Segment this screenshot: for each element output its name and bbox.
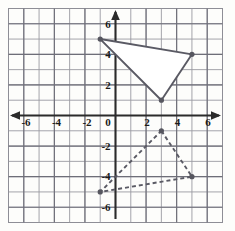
preimage-triangle-vertex-0 [98,36,103,41]
y-tick-label--6: -6 [101,201,111,213]
x-tick-label-6: 6 [205,116,211,128]
y-tick-label-2: 2 [105,79,111,91]
image-triangle-vertex-1 [189,174,194,179]
x-tick-label--6: -6 [21,116,31,128]
y-tick-label-6: 6 [105,18,111,30]
x-tick-label-0: 0 [105,116,111,128]
preimage-triangle-vertex-1 [189,52,194,57]
x-tick-label-2: 2 [144,116,150,128]
coordinate-plane-figure: -6 -4 -2 0 2 4 6 6 4 2 -2 -4 -6 [0,0,235,231]
image-triangle-vertex-0 [159,128,164,133]
x-tick-label--2: -2 [82,116,92,128]
coordinate-plane-svg: -6 -4 -2 0 2 4 6 6 4 2 -2 -4 -6 [0,0,235,231]
image-triangle-vertex-2 [98,189,103,194]
preimage-triangle-vertex-2 [159,98,164,103]
x-tick-label-4: 4 [175,116,181,128]
y-tick-label--2: -2 [101,140,111,152]
x-tick-label--4: -4 [52,116,62,128]
y-tick-label--4: -4 [101,170,111,182]
